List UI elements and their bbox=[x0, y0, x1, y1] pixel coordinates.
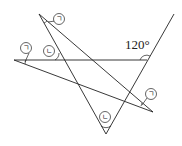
svg-text:ㄱ: ㄱ bbox=[56, 15, 62, 23]
svg-text:ㄴ: ㄴ bbox=[46, 47, 52, 55]
line-bottom-to-right-top bbox=[106, 14, 174, 134]
label-a1: ㄱ bbox=[54, 14, 65, 25]
line-left-to-right bbox=[14, 60, 153, 112]
svg-text:ㄴ: ㄴ bbox=[102, 113, 108, 121]
label-a3: ㄱ bbox=[146, 89, 157, 100]
label-a2: ㄱ bbox=[21, 43, 32, 54]
pointer-a2 bbox=[25, 53, 29, 62]
line-top-to-right bbox=[39, 14, 153, 112]
angle-120-label: 120° bbox=[125, 37, 150, 52]
geometry-diagram: ㄱ ㄱ ㄱ ㄴ ㄴ 120° bbox=[0, 0, 182, 146]
svg-text:ㄱ: ㄱ bbox=[148, 90, 154, 98]
label-b1: ㄴ bbox=[44, 46, 55, 57]
svg-text:ㄱ: ㄱ bbox=[23, 44, 29, 52]
label-b2: ㄴ bbox=[100, 112, 111, 123]
angle-arc-b1 bbox=[55, 53, 59, 60]
pointer-a3 bbox=[142, 98, 147, 105]
angle-arc-right bbox=[141, 103, 142, 106]
line-top-to-bottom bbox=[39, 14, 106, 134]
angle-arc-top bbox=[44, 21, 47, 23]
